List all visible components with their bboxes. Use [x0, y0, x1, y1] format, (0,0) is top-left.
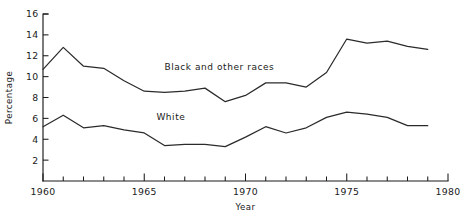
x-axis-tick-label: 1975 — [334, 186, 359, 197]
x-axis-tick-label: 1970 — [233, 186, 258, 197]
chart-series-lines — [43, 39, 428, 147]
series-label-white: White — [156, 112, 185, 122]
chart-tick-labels: 24681012141619601965197019751980 — [26, 8, 460, 197]
y-axis-tick-label: 10 — [26, 71, 38, 82]
y-axis-tick-label: 8 — [32, 92, 38, 103]
series-label-black-and-other-races: Black and other races — [165, 62, 275, 72]
y-axis-tick-label: 16 — [26, 8, 38, 19]
x-axis-tick-label: 1965 — [132, 186, 157, 197]
x-axis-tick-label: 1980 — [436, 186, 461, 197]
series-line-white — [43, 112, 428, 146]
y-axis-title: Percentage — [4, 71, 14, 124]
y-axis-tick-label: 4 — [32, 134, 38, 145]
y-axis-tick-label: 6 — [32, 113, 38, 124]
chart-axes — [43, 14, 448, 181]
x-axis-tick-label: 1960 — [31, 186, 56, 197]
chart-ticks — [43, 14, 448, 181]
chart-container: 24681012141619601965197019751980 Black a… — [0, 0, 467, 214]
line-chart: 24681012141619601965197019751980 Black a… — [0, 0, 467, 214]
y-axis-tick-label: 12 — [26, 50, 38, 61]
y-axis-tick-label: 14 — [26, 29, 38, 40]
x-axis-title: Year — [234, 202, 255, 212]
y-axis-tick-label: 2 — [32, 155, 38, 166]
